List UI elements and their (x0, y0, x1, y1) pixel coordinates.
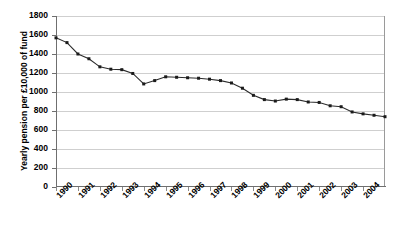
data-point (120, 68, 123, 71)
data-point (362, 112, 365, 115)
data-point (329, 104, 332, 107)
data-point (55, 36, 58, 39)
data-point (230, 81, 233, 84)
data-point (252, 94, 255, 97)
series-layer (0, 0, 402, 248)
data-point (65, 41, 68, 44)
data-point (241, 87, 244, 90)
data-point (153, 79, 156, 82)
data-point (263, 98, 266, 101)
data-point (131, 72, 134, 75)
data-point (285, 98, 288, 101)
data-point (197, 77, 200, 80)
data-point (318, 101, 321, 104)
data-point (384, 115, 387, 118)
data-line (56, 38, 385, 117)
data-point (164, 75, 167, 78)
data-point (219, 79, 222, 82)
data-point (208, 78, 211, 81)
data-point (351, 110, 354, 113)
data-point (340, 105, 343, 108)
data-point (175, 76, 178, 79)
data-point (98, 65, 101, 68)
data-point (87, 57, 90, 60)
data-point (186, 76, 189, 79)
data-point (109, 68, 112, 71)
data-point (142, 82, 145, 85)
data-point (307, 100, 310, 103)
data-point (296, 98, 299, 101)
data-point (373, 114, 376, 117)
data-point (76, 53, 79, 56)
data-point (274, 100, 277, 103)
pension-line-chart: Yearly pension per £10,000 of fund 02004… (0, 0, 402, 248)
